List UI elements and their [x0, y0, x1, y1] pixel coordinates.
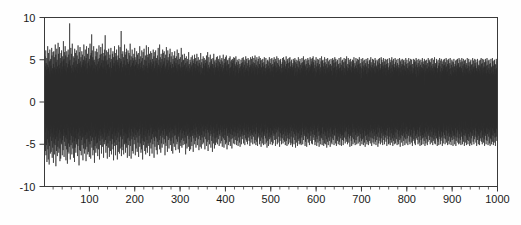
chart-figure: 1002003004005006007008009001000-10-50510: [0, 0, 521, 225]
x-tick-label: 700: [352, 193, 370, 205]
time-series-plot: 1002003004005006007008009001000-10-50510: [0, 0, 521, 225]
y-tick-label: 0: [29, 96, 35, 108]
x-tick-label: 1000: [485, 193, 509, 205]
x-tick-label: 100: [80, 193, 98, 205]
x-tick-label: 400: [216, 193, 234, 205]
x-tick-label: 600: [307, 193, 325, 205]
x-tick-label: 200: [126, 193, 144, 205]
y-tick-label: -5: [26, 138, 36, 150]
x-tick-label: 800: [398, 193, 416, 205]
y-tick-label: 5: [29, 54, 35, 66]
y-tick-label: 10: [23, 12, 35, 24]
x-tick-label: 900: [443, 193, 461, 205]
y-tick-label: -10: [20, 181, 36, 193]
x-tick-label: 300: [171, 193, 189, 205]
x-tick-label: 500: [262, 193, 280, 205]
